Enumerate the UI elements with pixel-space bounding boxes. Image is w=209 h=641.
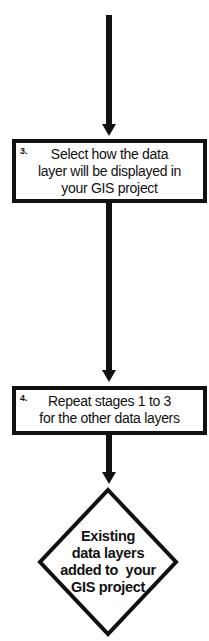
end-diamond-text: Existing data layers added to your GIS p… [58,528,158,596]
